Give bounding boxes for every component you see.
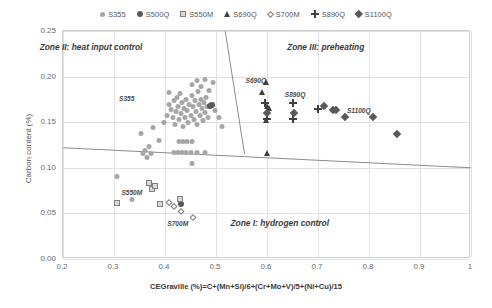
data-point-s355 [202, 141, 207, 159]
scatter-chart: S355S500QS550MS690QS700MS890QS1100Q Carb… [0, 0, 492, 308]
plot-area: Zone II: heat input controlZone III: pre… [62, 30, 470, 258]
point-marker-icon [220, 124, 225, 129]
point-marker-icon [156, 138, 161, 143]
x-axis-tick: 0.4 [158, 262, 169, 271]
point-marker-icon [167, 90, 172, 95]
gridline-vertical [471, 31, 472, 257]
data-point-s700m [191, 206, 196, 224]
data-point-s1100q [321, 95, 327, 113]
point-marker-icon [194, 122, 199, 127]
data-point-s700m [179, 200, 184, 218]
point-marker-icon [209, 102, 215, 108]
data-point-s550m [157, 193, 163, 211]
x-axis-tick: 0.7 [311, 262, 322, 271]
point-marker-icon [189, 161, 194, 166]
data-point-s355 [167, 81, 172, 99]
zone-annotation: Zone I: hydrogen control [230, 218, 329, 228]
series-annotation: S690Q [246, 77, 267, 84]
data-point-s355 [140, 142, 145, 160]
graville-upper-boundary [225, 31, 244, 154]
data-point-s355 [189, 152, 194, 170]
data-point-s500q [209, 94, 215, 112]
point-marker-icon [210, 80, 215, 85]
point-marker-icon [114, 200, 120, 206]
data-point-s1100q [291, 101, 297, 119]
y-axis-tick: 0.00 [14, 254, 56, 263]
data-point-s1100q [370, 106, 376, 124]
x-axis-tick: 0.3 [107, 262, 118, 271]
point-marker-icon [341, 113, 349, 121]
point-marker-icon [151, 125, 156, 130]
point-marker-icon [320, 102, 328, 110]
point-marker-icon [205, 115, 210, 120]
y-axis-tick: 0.15 [14, 117, 56, 126]
zone-annotation: Zone III: preheating [287, 42, 364, 52]
data-point-s700m [172, 195, 177, 213]
data-point-s1100q [264, 101, 270, 119]
point-marker-icon [152, 183, 158, 189]
data-point-s355 [210, 71, 215, 89]
data-point-s355 [151, 116, 156, 134]
y-axis-tick: 0.10 [14, 162, 56, 171]
series-annotation: S1100Q [347, 107, 371, 114]
series-annotation: S890Q [285, 90, 306, 97]
point-marker-icon [178, 208, 185, 215]
point-marker-icon [138, 131, 143, 136]
point-marker-icon [129, 197, 134, 202]
x-axis-label: CEGraville (%)=C+(Mn+Si)/6+(Cr+Mo+V)/5+(… [0, 282, 492, 291]
series-annotation: S355 [119, 95, 134, 102]
point-marker-icon [190, 214, 197, 221]
x-axis-tick: 0.5 [209, 262, 220, 271]
point-marker-icon [263, 109, 271, 117]
x-axis-tick: 0.9 [413, 262, 424, 271]
x-axis-tick: 0.6 [260, 262, 271, 271]
y-axis-tick: 0.05 [14, 208, 56, 217]
series-annotation: S700M [167, 219, 188, 226]
data-point-s550m [114, 192, 120, 210]
y-axis-tick: 0.20 [14, 71, 56, 80]
point-marker-icon [171, 203, 178, 210]
gridline-horizontal [63, 259, 469, 260]
data-point-s355 [194, 141, 199, 159]
y-axis-tick: 0.25 [14, 26, 56, 35]
x-axis-tick: 0.8 [362, 262, 373, 271]
data-point-s355 [114, 165, 119, 183]
point-marker-icon [290, 109, 298, 117]
data-point-s550m [152, 175, 158, 193]
data-point-s355 [138, 122, 143, 140]
series-annotation: S550M [121, 189, 142, 196]
data-point-s690q [264, 142, 270, 160]
data-point-s355 [156, 129, 161, 147]
point-marker-icon [264, 150, 270, 156]
x-axis-tick: 0.2 [56, 262, 67, 271]
zone-annotation: Zone II: heat input control [40, 42, 143, 52]
point-marker-icon [393, 130, 401, 138]
data-point-s355 [220, 115, 225, 133]
data-point-s1100q [334, 99, 340, 117]
data-point-s1100q [394, 122, 400, 140]
point-marker-icon [114, 174, 119, 179]
point-marker-icon [332, 106, 340, 114]
point-marker-icon [202, 150, 207, 155]
point-marker-icon [369, 113, 377, 121]
x-axis-tick: 1 [468, 262, 472, 271]
point-marker-icon [157, 201, 163, 207]
point-marker-icon [140, 151, 145, 156]
point-marker-icon [194, 150, 199, 155]
